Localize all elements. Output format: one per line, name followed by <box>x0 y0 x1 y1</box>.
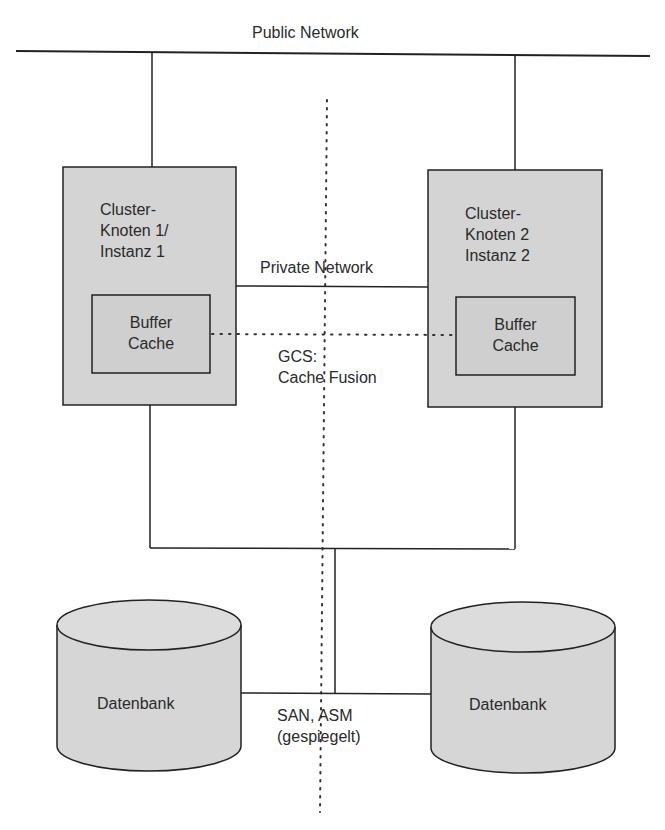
private-network-label: Private Network <box>260 257 373 278</box>
buffer-cache-line: Buffer <box>456 314 575 335</box>
storage-label: SAN, ASM (gespiegelt) <box>277 705 361 747</box>
storage-label-line: SAN, ASM <box>277 705 361 726</box>
san-link-line <box>241 693 431 694</box>
node2-title-line: Knoten 2 <box>465 224 530 245</box>
node1-title-line: Knoten 1/ <box>100 220 169 241</box>
database-right-cylinder <box>431 602 615 773</box>
gcs-label-line: GCS: <box>278 346 377 367</box>
private-network-line <box>236 286 428 287</box>
node1-title-line: Instanz 1 <box>100 241 169 262</box>
database-right-label: Datenbank <box>469 694 546 715</box>
buffer-cache-line: Buffer <box>92 312 210 333</box>
database-left-cylinder <box>57 600 241 771</box>
node1-title: Cluster- Knoten 1/ Instanz 1 <box>100 199 169 262</box>
buffer-cache-line: Cache <box>456 335 575 356</box>
buffer-cache-line: Cache <box>92 333 210 354</box>
public-network-line <box>16 51 650 56</box>
gcs-dotted-line <box>212 334 456 335</box>
gcs-label-line: Cache Fusion <box>278 367 377 388</box>
node2-title: Cluster- Knoten 2 Instanz 2 <box>465 203 530 266</box>
storage-bus-line <box>150 548 515 549</box>
database-left-label: Datenbank <box>97 693 174 714</box>
public-network-label: Public Network <box>252 22 359 43</box>
node1-title-line: Cluster- <box>100 199 169 220</box>
node1-buffer-cache-label: Buffer Cache <box>92 312 210 354</box>
storage-label-line: (gespiegelt) <box>277 726 361 747</box>
node2-buffer-cache-label: Buffer Cache <box>456 314 575 356</box>
node2-title-line: Cluster- <box>465 203 530 224</box>
node2-title-line: Instanz 2 <box>465 245 530 266</box>
gcs-label: GCS: Cache Fusion <box>278 346 377 388</box>
